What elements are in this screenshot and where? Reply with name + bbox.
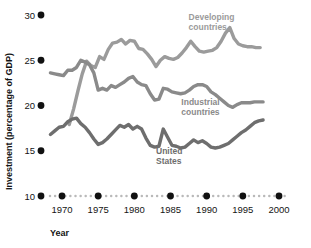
baseline-dot [120, 195, 123, 198]
baseline-dot [263, 195, 266, 198]
baseline-dot [258, 195, 261, 198]
baseline-dot [192, 195, 195, 198]
baseline-dot [69, 195, 72, 198]
baseline-dot [222, 195, 225, 198]
y-tick-dot [38, 147, 45, 154]
series-annotation-united-states: United States [156, 146, 182, 166]
developing-label-line2: countries [189, 22, 228, 32]
x-tick-label: 1980 [124, 204, 145, 215]
chart-canvas: Investment (percentage of GDP) 101520253… [0, 0, 311, 248]
series-annotation-industrial: Industrial countries [181, 97, 220, 117]
baseline-dot [181, 195, 184, 198]
baseline-dot [146, 195, 149, 198]
series-line [50, 118, 263, 148]
x-tick-label: 1985 [160, 204, 181, 215]
baseline-dot [217, 195, 220, 198]
baseline-dot [253, 195, 256, 198]
x-tick-label: 1970 [51, 204, 72, 215]
x-tick-dot [95, 193, 102, 200]
baseline-dot [49, 195, 52, 198]
y-tick-label: 10 [24, 191, 35, 202]
x-tick-label: 1975 [88, 204, 109, 215]
baseline-dot [151, 195, 154, 198]
y-tick-label: 15 [24, 145, 35, 156]
investment-gdp-line-chart: Investment (percentage of GDP) 101520253… [0, 0, 311, 248]
baseline-dot [84, 195, 87, 198]
baseline-dot [156, 195, 159, 198]
x-tick-label: 2000 [268, 204, 289, 215]
x-tick-dot [203, 193, 210, 200]
baseline-dot [273, 195, 276, 198]
baseline-dot [283, 195, 286, 198]
x-tick-dot [167, 193, 174, 200]
baseline-dot [115, 195, 118, 198]
baseline-dot [197, 195, 200, 198]
y-tick-label: 30 [24, 10, 35, 21]
x-tick-dot [131, 193, 138, 200]
x-tick-label: 1995 [232, 204, 253, 215]
baseline-dot [125, 195, 128, 198]
y-tick-label: 25 [24, 55, 35, 66]
baseline-dot [141, 195, 144, 198]
x-axis-title: Year [50, 228, 70, 238]
baseline-dot [110, 195, 113, 198]
x-tick-dot [59, 193, 66, 200]
x-tick-dot [276, 193, 283, 200]
y-tick-label: 20 [24, 100, 35, 111]
industrial-label-line1: Industrial [181, 97, 219, 107]
y-axis-title: Investment (percentage of GDP) [4, 53, 14, 190]
y-tick-dot [38, 57, 45, 64]
y-tick-dot [38, 12, 45, 19]
baseline-dot [105, 195, 108, 198]
baseline-dot [268, 195, 271, 198]
baseline-dot [79, 195, 82, 198]
x-tick-dot [239, 193, 246, 200]
industrial-label-line2: countries [181, 107, 220, 117]
baseline-dot [161, 195, 164, 198]
series-line [69, 28, 260, 125]
baseline-dot [248, 195, 251, 198]
baseline-dot [90, 195, 93, 198]
baseline-dot [212, 195, 215, 198]
baseline-dot [232, 195, 235, 198]
united-states-label-line1: United [156, 146, 182, 156]
baseline-dot [74, 195, 77, 198]
series-lines [50, 28, 263, 148]
x-tick-label: 1990 [196, 204, 217, 215]
baseline-dot [186, 195, 189, 198]
baseline-dot [176, 195, 179, 198]
y-tick-dot [38, 193, 45, 200]
y-axis-ticks: 1015202530 [24, 10, 44, 202]
baseline-dot [227, 195, 230, 198]
developing-label-line1: Developing [189, 12, 235, 22]
y-tick-dot [38, 102, 45, 109]
baseline-dot [54, 195, 57, 198]
united-states-label-line2: States [156, 156, 182, 166]
